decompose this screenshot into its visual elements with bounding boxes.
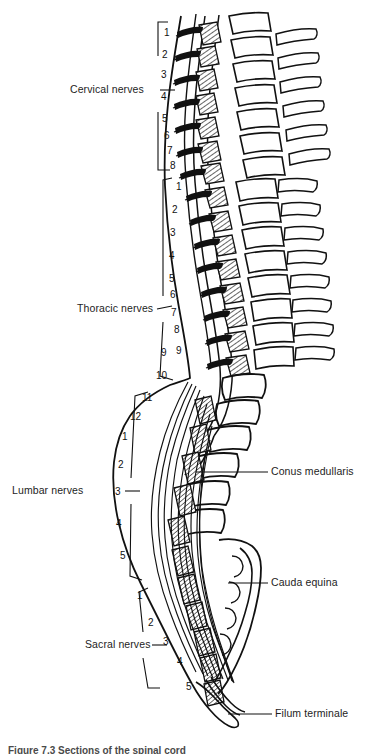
nerve-number-thoracic-6: 6 xyxy=(170,290,176,300)
nerve-number-sacral-2: 2 xyxy=(148,618,154,628)
callout-label-cauda-equina: Cauda equina xyxy=(271,577,338,588)
nerve-number-cervical-5: 5 xyxy=(162,114,168,124)
nerve-number-lumbar-1: 1 xyxy=(122,432,128,442)
nerve-number-thoracic-10: 10 xyxy=(156,371,167,381)
nerve-number-cervical-3: 3 xyxy=(161,70,167,80)
nerve-number-thoracic-7: 7 xyxy=(171,308,177,318)
region-label-thoracic: Thoracic nerves xyxy=(77,303,153,314)
callout-label-filum-terminale: Filum terminale xyxy=(275,708,348,719)
nerve-number-sacral-1: 1 xyxy=(137,591,143,601)
nerve-number-thoracic-8: 8 xyxy=(174,325,180,335)
nerve-number-cervical-4: 4 xyxy=(161,92,167,102)
region-label-lumbar: Lumbar nerves xyxy=(12,485,83,496)
nerve-number-lumbar-2: 2 xyxy=(118,460,124,470)
nerve-number-lumbar-3: 3 xyxy=(115,487,121,497)
region-label-sacral: Sacral nerves xyxy=(85,639,151,650)
region-label-cervical: Cervical nerves xyxy=(70,84,144,95)
nerve-number-cervical-1: 1 xyxy=(164,28,170,38)
nerve-number-thoracic-11: 11 xyxy=(142,393,152,403)
nerve-number-thoracic-2: 2 xyxy=(172,205,178,215)
nerve-number-thoracic-3: 3 xyxy=(170,228,176,238)
nerve-number-sacral-3: 3 xyxy=(163,637,169,647)
nerve-number-thoracic-12: 12 xyxy=(130,412,141,422)
nerve-number-cervical-2: 2 xyxy=(162,50,168,60)
nerve-number-cervical-8: 8 xyxy=(170,161,176,171)
nerve-number-thoracic-1: 1 xyxy=(176,182,182,192)
spinal-cord-figure xyxy=(0,0,365,754)
nerve-number-lumbar-5: 5 xyxy=(120,551,126,561)
nerve-number-lumbar-4: 4 xyxy=(116,519,122,529)
figure-caption: Figure 7.3 Sections of the spinal cord xyxy=(8,745,186,754)
nerve-number-sacral-4: 4 xyxy=(177,657,183,667)
nerve-number-thoracic-5: 5 xyxy=(169,274,175,284)
nerve-number-cervical-6: 6 xyxy=(164,131,170,141)
nerve-number-sacral-5: 5 xyxy=(186,682,192,692)
nerve-number-cervical-7: 7 xyxy=(167,146,173,156)
nerve-number-thoracic-9: 9 xyxy=(176,346,182,356)
callout-label-conus-medullaris: Conus medullaris xyxy=(271,466,354,477)
nerve-number-thoracic-9-label: 9 xyxy=(161,348,167,358)
nerve-number-thoracic-4: 4 xyxy=(169,251,175,261)
